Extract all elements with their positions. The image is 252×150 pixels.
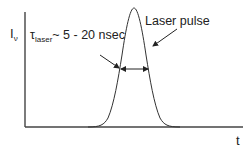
pulse-diagram [0,0,252,150]
tau-pointer-arrow [100,55,119,68]
x-axis-label: t [236,133,240,148]
laser-pulse-label: Laser pulse [145,14,210,28]
pulse-pointer-arrow [153,29,177,46]
pulse-duration-label: τlaser~ 5 - 20 nsec [30,28,125,44]
y-axis-label: Iν [10,26,18,43]
